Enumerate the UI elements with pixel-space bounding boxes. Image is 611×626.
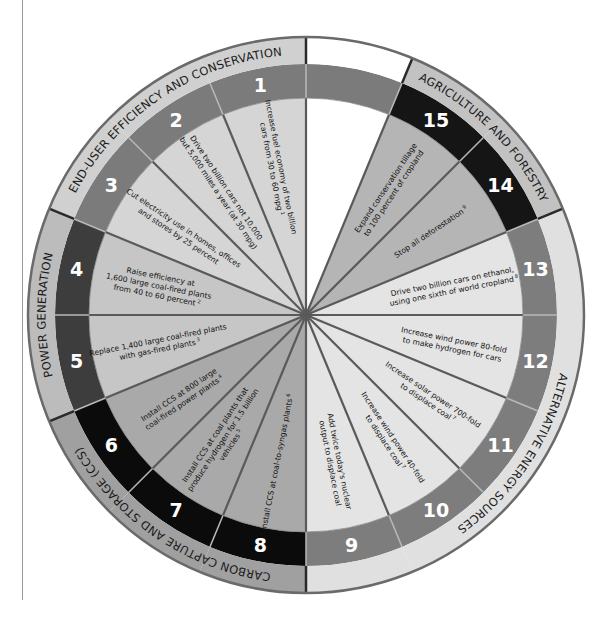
wedge-number: 14 — [487, 174, 513, 196]
wedge-number: 1 — [254, 74, 267, 96]
wedge-number: 7 — [169, 499, 182, 521]
wedge-number: 9 — [345, 534, 358, 556]
wedge-number: 5 — [70, 350, 83, 372]
wedge-number: 2 — [169, 109, 182, 131]
wedge-number: 11 — [487, 434, 513, 456]
wedge-number: 13 — [522, 258, 548, 280]
wedge-number: 12 — [522, 350, 548, 372]
wedge-number: 15 — [423, 109, 449, 131]
wedge-number: 6 — [105, 434, 118, 456]
wedge-number: 8 — [254, 534, 267, 556]
wedge-number: 10 — [423, 499, 449, 521]
wedge-number: 4 — [70, 258, 83, 280]
wedge-wheel-diagram: END-USER EFFICIENCY AND CONSERVATIONPOWE… — [0, 0, 611, 626]
wedge-number: 3 — [105, 174, 118, 196]
